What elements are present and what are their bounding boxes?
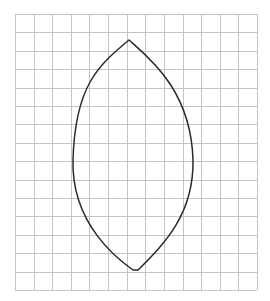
grid-diagram [0,0,270,301]
graph-paper-grid [15,14,258,291]
